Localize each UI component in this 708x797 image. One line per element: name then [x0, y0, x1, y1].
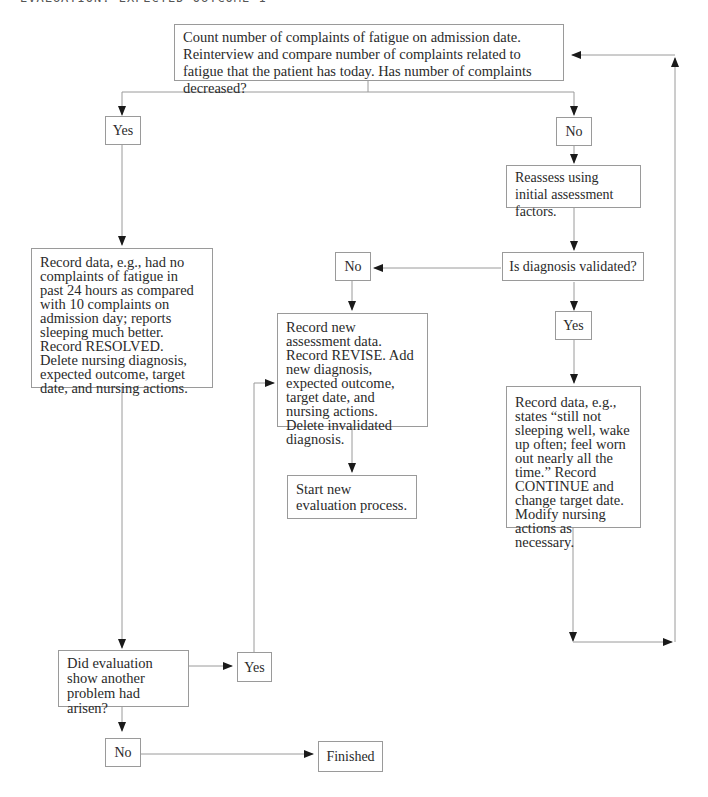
start-new-evaluation-box: Start new evaluation process.	[287, 475, 417, 519]
yes-validated-label: Yes	[563, 316, 583, 335]
finished-label: Finished	[326, 747, 374, 766]
start-decision-box: Count number of complaints of fatigue on…	[174, 24, 564, 81]
no-bottom-label: No	[114, 743, 131, 762]
yes-top-box: Yes	[105, 116, 141, 145]
yes-validated-box: Yes	[555, 311, 592, 340]
no-bottom-box: No	[105, 738, 141, 767]
continue-box: Record data, e.g., states “still not sle…	[506, 386, 641, 528]
resolved-text: Record data, e.g., had no complaints of …	[40, 254, 194, 396]
another-problem-text: Did evaluation show another problem had …	[67, 655, 153, 716]
resolved-box: Record data, e.g., had no complaints of …	[31, 248, 213, 388]
yes-bottom-label: Yes	[244, 658, 264, 677]
yes-bottom-box: Yes	[237, 652, 272, 682]
finished-box: Finished	[318, 741, 383, 772]
another-problem-decision-box: Did evaluation show another problem had …	[58, 650, 189, 707]
no-validated-box: No	[335, 252, 371, 281]
no-validated-label: No	[344, 257, 361, 276]
continue-text: Record data, e.g., states “still not sle…	[515, 394, 630, 550]
yes-top-label: Yes	[113, 121, 133, 140]
revise-box: Record new assessment data. Record REVIS…	[277, 313, 428, 427]
validated-decision-text: Is diagnosis validated?	[509, 257, 637, 276]
reassess-box: Reassess using initial assessment factor…	[506, 165, 641, 208]
start-new-evaluation-text: Start new evaluation process.	[296, 481, 407, 513]
validated-decision-box: Is diagnosis validated?	[502, 252, 644, 281]
no-top-box: No	[556, 117, 592, 146]
no-top-label: No	[565, 122, 582, 141]
